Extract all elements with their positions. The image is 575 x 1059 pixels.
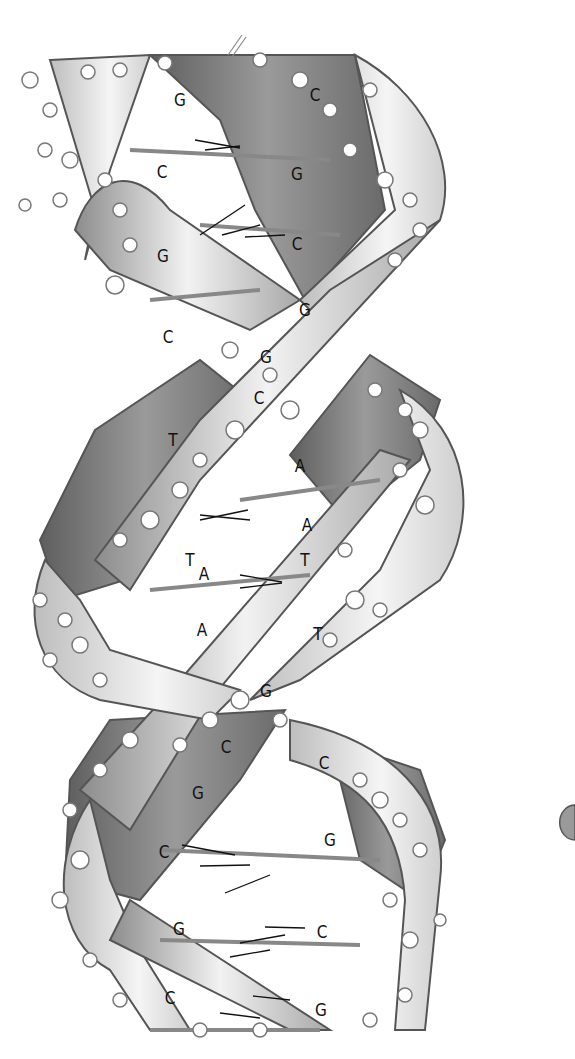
base-label-t: T <box>313 626 322 643</box>
base-label-a: A <box>197 622 207 639</box>
base-label-t: T <box>185 552 194 569</box>
base-label-g: G <box>315 1002 327 1019</box>
base-label-g: G <box>299 302 311 319</box>
base-label-c: C <box>221 739 232 756</box>
base-label-c: C <box>317 924 328 941</box>
base-label-c: C <box>319 755 330 772</box>
base-label-a: A <box>302 517 312 534</box>
base-label-a: A <box>199 566 209 583</box>
base-label-c: C <box>163 329 174 346</box>
base-label-g: G <box>173 921 185 938</box>
base-label-c: C <box>165 990 176 1007</box>
base-label-g: G <box>157 248 169 265</box>
base-label-g: G <box>324 832 336 849</box>
base-label-c: C <box>292 236 303 253</box>
base-label-g: G <box>260 683 272 700</box>
base-label-c: C <box>254 390 265 407</box>
base-label-a: A <box>295 458 305 475</box>
base-label-c: C <box>159 844 170 861</box>
base-label-t: T <box>168 432 177 449</box>
dna-double-helix-figure: GCCGGCGCGCTAATATATGCCGGCGCCG <box>0 0 575 1059</box>
base-label-g: G <box>174 92 186 109</box>
base-label-g: G <box>260 349 272 366</box>
base-label-g: G <box>192 785 204 802</box>
partial-molecule-edge <box>560 805 575 840</box>
base-label-g: G <box>291 166 303 183</box>
base-label-t: T <box>300 552 309 569</box>
base-label-c: C <box>310 87 321 104</box>
base-label-c: C <box>157 164 168 181</box>
helix-illustration <box>0 0 575 1059</box>
